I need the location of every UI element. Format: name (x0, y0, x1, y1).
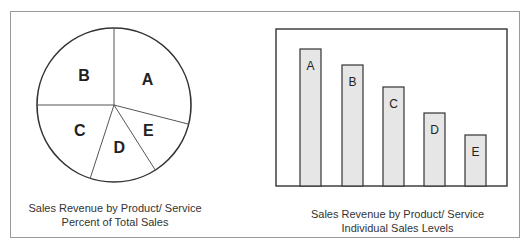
bar-label: D (430, 123, 439, 137)
bar (465, 135, 486, 186)
bar-caption-title: Sales Revenue by Product/ Service (285, 207, 510, 221)
bar-label: B (348, 75, 356, 89)
bar-caption: Sales Revenue by Product/ Service Indivi… (285, 207, 510, 235)
bar-caption-subtitle: Individual Sales Levels (285, 221, 510, 235)
pie-caption-subtitle: Percent of Total Sales (20, 215, 210, 229)
pie-caption: Sales Revenue by Product/ Service Percen… (20, 201, 210, 229)
bar-label: A (306, 59, 314, 73)
bar-label: C (389, 97, 398, 111)
bar-label: E (471, 145, 479, 159)
pie-caption-title: Sales Revenue by Product/ Service (20, 201, 210, 215)
